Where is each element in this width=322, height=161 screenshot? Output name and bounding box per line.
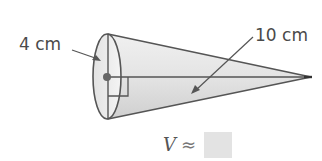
cone-diagram: 4 cm 10 cm V ≈ [0,0,322,161]
approx-symbol: ≈ [181,134,196,155]
answer-box[interactable] [204,132,232,158]
volume-variable: V [163,134,176,155]
base-center-dot [103,73,111,81]
slant-height-label: 10 cm [255,27,308,44]
radius-label: 4 cm [19,36,61,53]
